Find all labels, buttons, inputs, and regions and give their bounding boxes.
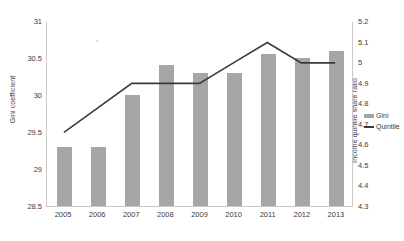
y-right-tick-4.6: 4.6 [358,140,380,149]
y-right-tick-4.8: 4.8 [358,99,380,108]
legend-item-gini[interactable]: Gini [364,110,404,121]
y-left-tick-29.5: 29.5 [20,128,42,137]
y-right-tick-4.3: 4.3 [358,202,380,211]
legend-swatch-line-icon [364,126,374,128]
x-axis-label-2006: 2006 [80,210,114,219]
chart-legend: Gini Quintile [364,110,404,132]
x-axis-label-2007: 2007 [114,210,148,219]
line-series-quintile [47,22,352,206]
legend-swatch-bar-icon [364,114,374,118]
chart-container: Gini coefficient Income quintile share r… [0,0,404,241]
x-axis-label-2010: 2010 [217,210,251,219]
x-axis-label-2012: 2012 [285,210,319,219]
x-axis-label-2008: 2008 [148,210,182,219]
x-axis-label-2009: 2009 [183,210,217,219]
legend-item-quintile[interactable]: Quintile [364,121,404,132]
y-left-tick-29: 29 [20,165,42,174]
y-right-tick-5: 5 [358,58,380,67]
legend-label-quintile: Quintile [376,123,400,130]
y-right-tick-5.1: 5.1 [358,38,380,47]
y-left-tick-30: 30 [20,91,42,100]
plot-area [46,22,353,207]
y-left-tick-30.5: 30.5 [20,54,42,63]
y-left-tick-28.5: 28.5 [20,202,42,211]
y-left-tick-31: 31 [20,17,42,26]
y-right-tick-4.4: 4.4 [358,181,380,190]
x-axis-label-2013: 2013 [319,210,353,219]
legend-label-gini: Gini [376,112,388,119]
x-axis-label-2011: 2011 [251,210,285,219]
y-right-tick-5.2: 5.2 [358,17,380,26]
y-axis-left-title: Gini coefficient [9,55,16,145]
y-axis-left-ticks: 28.52929.53030.531 [18,0,42,241]
x-axis-label-2005: 2005 [46,210,80,219]
x-axis-labels: 200520062007200820092010201120122013 [46,210,353,224]
y-right-tick-4.9: 4.9 [358,79,380,88]
y-right-tick-4.5: 4.5 [358,161,380,170]
